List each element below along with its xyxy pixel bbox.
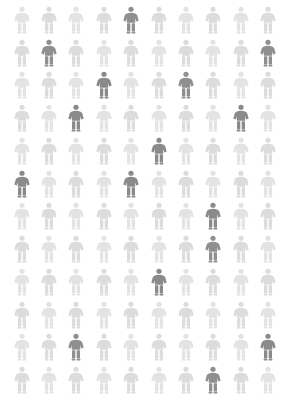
person-icon xyxy=(39,202,59,231)
person-cell xyxy=(255,364,282,397)
person-icon xyxy=(176,170,196,199)
person-cell xyxy=(145,332,172,365)
person-cell-highlighted xyxy=(200,233,227,266)
person-cell xyxy=(145,233,172,266)
person-cell xyxy=(35,332,62,365)
person-cell xyxy=(255,70,282,103)
person-cell xyxy=(63,168,90,201)
person-cell xyxy=(118,332,145,365)
person-cell xyxy=(8,70,35,103)
person-cell xyxy=(145,201,172,234)
person-icon xyxy=(176,202,196,231)
person-cell xyxy=(63,233,90,266)
person-cell xyxy=(227,135,254,168)
person-cell xyxy=(172,135,199,168)
person-cell xyxy=(255,201,282,234)
person-icon xyxy=(121,137,141,166)
person-cell xyxy=(118,70,145,103)
person-icon xyxy=(231,6,251,35)
person-cell-highlighted xyxy=(227,102,254,135)
person-cell xyxy=(118,364,145,397)
person-cell xyxy=(8,332,35,365)
person-cell xyxy=(172,332,199,365)
person-cell-highlighted xyxy=(8,168,35,201)
person-icon xyxy=(94,39,114,68)
person-cell xyxy=(227,70,254,103)
person-cell xyxy=(35,70,62,103)
person-cell-highlighted xyxy=(118,4,145,37)
person-cell-highlighted xyxy=(200,201,227,234)
person-icon xyxy=(66,301,86,330)
person-cell xyxy=(200,168,227,201)
person-icon xyxy=(176,235,196,264)
person-icon xyxy=(121,39,141,68)
person-icon xyxy=(121,366,141,395)
person-cell xyxy=(145,4,172,37)
person-icon xyxy=(12,71,32,100)
person-cell xyxy=(200,4,227,37)
person-cell xyxy=(118,102,145,135)
person-cell xyxy=(63,364,90,397)
person-icon xyxy=(258,268,278,297)
person-icon xyxy=(203,301,223,330)
person-cell xyxy=(145,299,172,332)
person-icon xyxy=(176,104,196,133)
person-icon xyxy=(12,170,32,199)
person-cell xyxy=(227,37,254,70)
person-icon xyxy=(121,6,141,35)
person-cell xyxy=(63,299,90,332)
person-icon xyxy=(94,202,114,231)
person-cell xyxy=(227,233,254,266)
person-cell xyxy=(63,266,90,299)
person-icon xyxy=(176,39,196,68)
person-icon xyxy=(12,235,32,264)
person-icon xyxy=(203,71,223,100)
person-icon xyxy=(94,104,114,133)
person-cell xyxy=(172,233,199,266)
person-cell xyxy=(8,4,35,37)
person-cell xyxy=(200,102,227,135)
person-icon xyxy=(12,333,32,362)
person-icon xyxy=(121,104,141,133)
person-cell-highlighted xyxy=(145,266,172,299)
person-cell-highlighted xyxy=(63,332,90,365)
person-icon xyxy=(66,104,86,133)
person-icon xyxy=(66,268,86,297)
person-icon xyxy=(121,268,141,297)
person-icon xyxy=(66,202,86,231)
person-cell xyxy=(118,37,145,70)
person-cell xyxy=(35,4,62,37)
person-icon xyxy=(39,71,59,100)
person-cell xyxy=(255,135,282,168)
person-cell-highlighted xyxy=(172,70,199,103)
person-icon xyxy=(39,170,59,199)
person-cell xyxy=(35,299,62,332)
person-cell-highlighted xyxy=(145,135,172,168)
person-cell-highlighted xyxy=(90,70,117,103)
person-icon xyxy=(203,202,223,231)
person-cell xyxy=(35,201,62,234)
person-cell xyxy=(8,135,35,168)
person-icon xyxy=(66,71,86,100)
person-icon xyxy=(203,333,223,362)
person-icon xyxy=(39,235,59,264)
person-icon xyxy=(39,333,59,362)
person-icon xyxy=(231,104,251,133)
person-icon xyxy=(149,202,169,231)
person-cell xyxy=(227,364,254,397)
person-cell xyxy=(227,168,254,201)
person-icon xyxy=(94,333,114,362)
person-icon xyxy=(149,104,169,133)
person-icon xyxy=(203,137,223,166)
person-icon xyxy=(258,235,278,264)
person-cell xyxy=(63,201,90,234)
person-icon xyxy=(231,366,251,395)
person-cell xyxy=(227,266,254,299)
person-icon xyxy=(231,39,251,68)
person-icon xyxy=(176,333,196,362)
person-cell xyxy=(8,233,35,266)
person-icon xyxy=(94,6,114,35)
person-cell xyxy=(200,135,227,168)
person-icon xyxy=(231,71,251,100)
person-cell xyxy=(227,4,254,37)
